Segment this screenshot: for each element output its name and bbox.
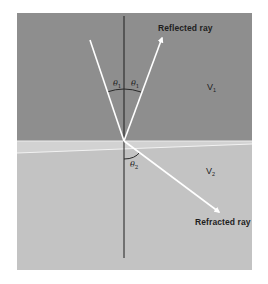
v-subscript: 1 [213, 87, 216, 93]
upper-medium-region [17, 13, 252, 141]
reflection-refraction-diagram: Reflected ray Refracted ray θ1 θ1 θ2 V1 … [0, 0, 268, 284]
theta1-right-label: θ1 [131, 80, 139, 90]
theta-subscript: 1 [118, 83, 122, 89]
theta2-label: θ2 [130, 161, 138, 171]
diagram-canvas [0, 0, 268, 284]
v2-label: V2 [206, 167, 215, 178]
theta-subscript: 1 [136, 83, 140, 89]
v1-label: V1 [207, 83, 216, 94]
theta1-left-label: θ1 [113, 80, 121, 90]
theta-subscript: 2 [135, 164, 139, 170]
refracted-ray-label: Refracted ray [195, 218, 251, 227]
reflected-ray-label: Reflected ray [158, 24, 213, 33]
v-subscript: 2 [212, 171, 215, 177]
